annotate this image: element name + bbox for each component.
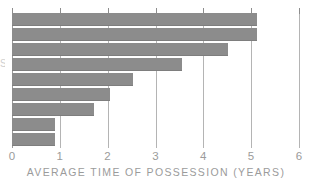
bar-row: [12, 103, 299, 116]
bar-row: [12, 118, 299, 131]
x-tick-label-2: 2: [98, 149, 118, 163]
bar-row: [12, 13, 299, 26]
bar-row: [12, 58, 299, 71]
x-axis-title: AVERAGE TIME OF POSSESSION (YEARS): [0, 166, 312, 178]
bar-row: [12, 88, 299, 101]
gridline-6: [299, 13, 300, 148]
bar-row: [12, 73, 299, 86]
bar: [12, 13, 257, 26]
x-tick-label-3: 3: [146, 149, 166, 163]
tick-mark-6: [299, 8, 300, 14]
bars: [12, 13, 299, 148]
clipped-y-axis-label: S: [0, 58, 5, 69]
bar: [12, 103, 94, 116]
bar: [12, 73, 133, 86]
bar-chart: S 0123456 AVERAGE TIME OF POSSESSION (YE…: [0, 0, 312, 186]
bar-row: [12, 133, 299, 146]
plot-area: [12, 13, 299, 148]
bar: [12, 133, 55, 146]
x-tick-label-0: 0: [2, 149, 22, 163]
x-tick-label-4: 4: [193, 149, 213, 163]
x-axis-tick-labels: 0123456: [12, 149, 299, 165]
x-tick-label-6: 6: [289, 149, 309, 163]
bar-row: [12, 43, 299, 56]
bar: [12, 43, 228, 56]
bar: [12, 88, 110, 101]
bar: [12, 118, 55, 131]
x-tick-label-5: 5: [241, 149, 261, 163]
x-tick-label-1: 1: [50, 149, 70, 163]
bar: [12, 58, 182, 71]
bar: [12, 28, 257, 41]
bar-row: [12, 28, 299, 41]
